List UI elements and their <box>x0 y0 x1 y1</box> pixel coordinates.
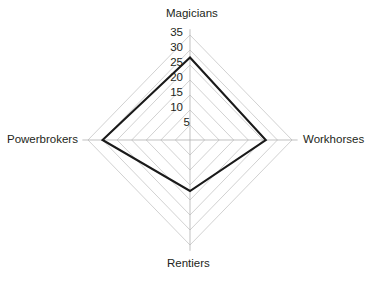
tick-label-35: 35 <box>163 27 183 39</box>
tick-label-15: 15 <box>163 87 183 99</box>
axis-label-workhorses: Workhorses <box>303 134 364 146</box>
tick-label-10: 10 <box>163 102 183 114</box>
axis-label-powerbrokers: Powerbrokers <box>7 134 78 146</box>
tick-label-5: 5 <box>170 117 190 129</box>
tick-label-20: 20 <box>163 72 183 84</box>
tick-label-30: 30 <box>163 42 183 54</box>
axis-label-magicians: Magicians <box>166 8 218 20</box>
tick-label-25: 25 <box>163 57 183 69</box>
radar-chart: Magicians Workhorses Rentiers Powerbroke… <box>0 0 370 282</box>
axis-label-rentiers: Rentiers <box>167 258 210 270</box>
